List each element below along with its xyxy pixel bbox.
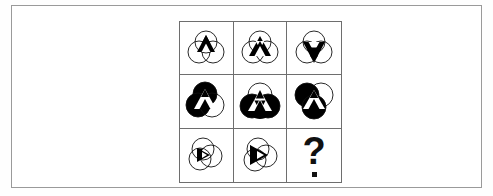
figure-row1-col3: [291, 25, 337, 71]
figure-row3-col1: [183, 132, 229, 178]
matrix-puzzle-grid: ?: [179, 21, 342, 183]
matrix-cell-row1-col1[interactable]: [180, 22, 234, 75]
matrix-cell-row1-col3[interactable]: [287, 22, 341, 75]
document-frame: ?: [11, 5, 482, 188]
matrix-cell-row3-col3[interactable]: ?: [287, 129, 341, 182]
puzzle-page: ?: [0, 0, 493, 196]
matrix-cell-row2-col2[interactable]: [234, 75, 288, 128]
figure-row1-col1: [183, 25, 229, 71]
figure-row1-col2: [237, 25, 283, 71]
matrix-cell-row2-col3[interactable]: [287, 75, 341, 128]
matrix-cell-row3-col1[interactable]: [180, 129, 234, 182]
figure-row2-col1: [183, 78, 229, 124]
answer-placeholder: ?: [303, 134, 326, 177]
figure-row2-col3: [291, 78, 337, 124]
question-mark-glyph: ?: [303, 134, 326, 169]
matrix-cell-row3-col2[interactable]: [234, 129, 288, 182]
matrix-cell-row1-col2[interactable]: [234, 22, 288, 75]
figure-row3-col2: [237, 132, 283, 178]
matrix-cell-row2-col1[interactable]: [180, 75, 234, 128]
question-mark-dot: [312, 172, 317, 177]
figure-row2-col2: [237, 78, 283, 124]
